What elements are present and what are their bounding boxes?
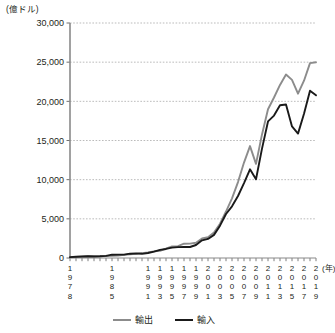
x-axis-tick-label: 1999 [192, 264, 201, 301]
x-axis-tick-label: 2019 [312, 264, 321, 301]
legend-swatch-imports [175, 319, 193, 321]
x-axis-tick-label: 2007 [240, 264, 249, 301]
x-axis-tick-label: 2005 [228, 264, 237, 301]
y-axis-tick-label: 20,000 [36, 97, 64, 107]
y-axis-tick-label: 25,000 [36, 57, 64, 67]
x-axis-tick-label: 1993 [156, 264, 165, 301]
x-axis-tick-label: 1991 [144, 264, 153, 301]
legend-swatch-exports [113, 319, 131, 321]
y-axis-tick-label: 5,000 [41, 214, 64, 224]
x-axis-tick-label: 2003 [216, 264, 225, 301]
y-axis-tick-label: 10,000 [36, 175, 64, 185]
legend-label-exports: 輸出 [135, 315, 153, 325]
legend-item-exports: 輸出 [113, 315, 153, 325]
data-series-layer [70, 62, 316, 257]
x-axis-tick-label: 2011 [264, 264, 273, 301]
chart-legend: 輸出 輸入 [0, 315, 328, 325]
legend-item-imports: 輸入 [175, 315, 215, 325]
y-axis-tick-label: 15,000 [36, 136, 64, 146]
x-axis-tick-label: 2001 [204, 264, 213, 301]
series-line-imports [70, 91, 316, 257]
x-axis-tick-label: 1985 [108, 264, 117, 301]
y-axis-tick-label: 0 [59, 253, 64, 263]
y-axis-tick-label: 30,000 [36, 18, 64, 28]
x-axis-tick-label: 2015 [288, 264, 297, 301]
x-axis-tick-label: 1997 [180, 264, 189, 301]
x-axis-tick-label: 2013 [276, 264, 285, 301]
series-line-exports [70, 62, 316, 257]
x-axis-tick-label: 1978 [66, 264, 75, 301]
x-axis-tick-label: 1995 [168, 264, 177, 301]
y-axis-tick-labels: 05,00010,00015,00020,00025,00030,000 [36, 18, 64, 263]
legend-label-imports: 輸入 [197, 315, 215, 325]
x-axis-tick-label: 2017 [300, 264, 309, 301]
x-axis-unit-label: (年) [322, 264, 335, 273]
x-axis-tick-label: 2009 [252, 264, 261, 301]
gridlines [67, 23, 317, 258]
